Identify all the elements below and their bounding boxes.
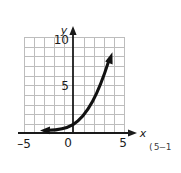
tick-label-y-top: 10 — [54, 33, 69, 47]
corner-note: (5–1 — [148, 142, 181, 152]
exponential-curve — [40, 52, 113, 134]
tick-label-5-right-text: 5 — [119, 136, 127, 150]
x-axis-label-text: x — [139, 127, 147, 140]
tick-label-5-text: 5 — [61, 79, 69, 93]
y-axis-arrowhead — [69, 26, 76, 35]
x-axis-arrowhead — [128, 129, 137, 136]
axis-label-x: x — [139, 127, 147, 140]
tick-label-x-right: 5 — [119, 136, 127, 150]
grid-lines — [24, 37, 125, 133]
y-axis — [69, 26, 76, 133]
tick-label-x-left: –5 — [17, 137, 31, 151]
tick-label-minus5-text: –5 — [17, 137, 31, 151]
tick-label-origin: 0 — [64, 136, 72, 150]
curve-right-arrowhead — [105, 52, 112, 64]
tick-label-0-text: 0 — [64, 136, 72, 150]
tick-label-y-mid: 5 — [61, 79, 69, 93]
tick-label-10-text: 10 — [54, 33, 69, 47]
